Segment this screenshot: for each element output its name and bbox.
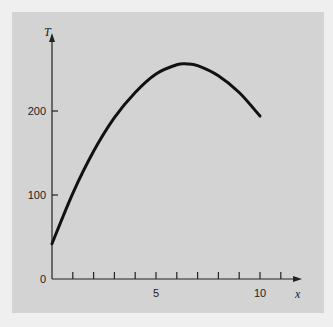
y-tick-label: 100 — [28, 189, 46, 201]
data-line — [52, 64, 260, 244]
x-axis-arrow-icon — [293, 276, 302, 282]
x-tick-label: 10 — [254, 287, 266, 299]
chart-canvas: 5100100200 T x — [0, 0, 333, 327]
y-tick-label: 200 — [28, 105, 46, 117]
y-tick-label: 0 — [40, 273, 46, 285]
axes: 5100100200 — [28, 33, 302, 299]
x-axis-title: x — [294, 287, 301, 301]
x-tick-label: 5 — [153, 287, 159, 299]
